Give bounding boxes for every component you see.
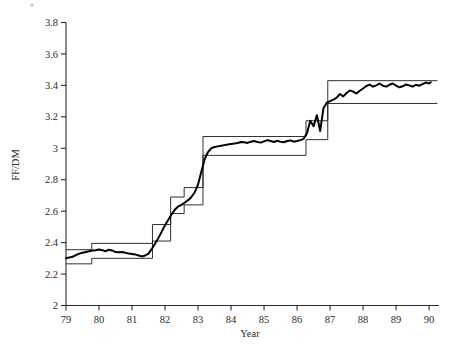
y-axis-tick-label: 3.8 [45, 17, 58, 28]
x-axis-title: Year [240, 328, 260, 339]
x-axis-tick-label: 88 [358, 314, 369, 325]
y-axis-tick-label: 2.8 [45, 174, 58, 185]
y-axis-tick-label: 3.2 [45, 111, 58, 122]
x-axis-tick-label: 87 [325, 314, 336, 325]
y-axis-tick-label: 2.6 [45, 206, 58, 217]
scan-speck [30, 3, 33, 6]
y-axis-tick-label: 2.2 [45, 269, 58, 280]
y-axis-tick-label: 3.4 [45, 80, 59, 91]
x-axis-tick-label: 82 [160, 314, 171, 325]
x-axis-tick-label: 81 [127, 314, 138, 325]
y-axis-tick-label: 3.6 [45, 49, 58, 60]
y-axis-tick-label: 2.4 [45, 237, 59, 248]
x-axis-tick-label: 79 [61, 314, 72, 325]
y-axis-title: FF/DM [10, 149, 21, 181]
ff-dm-exchange-rate-chart: 22.22.42.62.833.23.43.63.8 7980818283848… [0, 0, 460, 347]
x-axis-tick-label: 86 [292, 314, 303, 325]
x-axis-tick-label: 90 [424, 314, 435, 325]
chart-figure: 22.22.42.62.833.23.43.63.8 7980818283848… [0, 0, 460, 347]
chart-background [0, 0, 460, 347]
y-axis-tick-label: 2 [53, 300, 58, 311]
x-axis-tick-label: 89 [391, 314, 402, 325]
x-axis-tick-label: 83 [193, 314, 204, 325]
x-axis-tick-label: 85 [259, 314, 270, 325]
x-axis-tick-label: 80 [94, 314, 105, 325]
x-axis-tick-label: 84 [226, 314, 237, 325]
y-axis-tick-label: 3 [53, 143, 58, 154]
